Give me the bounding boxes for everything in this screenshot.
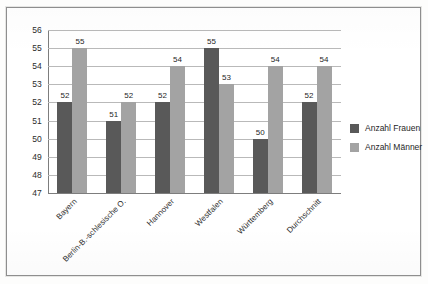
- bar-value-label: 55: [75, 37, 84, 46]
- x-axis-tick-labels: BayernBerlin-B.-schlesische O.HannoverWe…: [48, 195, 341, 255]
- bar[interactable]: 52: [121, 102, 136, 193]
- bar-group: 5254: [292, 30, 341, 193]
- legend-label: Anzahl Männer: [365, 142, 422, 152]
- y-axis-tick-label: 48: [32, 170, 42, 180]
- legend-label: Anzahl Frauen: [365, 123, 420, 133]
- bar[interactable]: 52: [155, 102, 170, 193]
- chart-page: 56555453525150494847 5255515252545553505…: [0, 0, 428, 284]
- bar[interactable]: 54: [268, 66, 283, 193]
- y-axis-tick-label: 53: [32, 79, 42, 89]
- bar-value-label: 55: [207, 37, 216, 46]
- y-axis-tick-label: 52: [32, 97, 42, 107]
- x-axis-tick-cell: Westfalen: [194, 195, 243, 255]
- bar[interactable]: 52: [57, 102, 72, 193]
- x-axis-tick-cell: Berlin-B.-schlesische O.: [97, 195, 146, 255]
- legend-item[interactable]: Anzahl Frauen: [350, 123, 428, 133]
- x-axis-tick-label: Hannover: [146, 197, 177, 228]
- legend-swatch: [350, 124, 359, 133]
- bar[interactable]: 54: [317, 66, 332, 193]
- bar-value-label: 54: [271, 55, 280, 64]
- y-axis-tick-label: 51: [32, 116, 42, 126]
- y-axis-tick-label: 49: [32, 152, 42, 162]
- y-axis-tick-label: 55: [32, 43, 42, 53]
- bar-value-label: 50: [256, 128, 265, 137]
- bar[interactable]: 50: [253, 139, 268, 193]
- y-axis-tick-label: 54: [32, 61, 42, 71]
- y-axis-tick-label: 56: [32, 25, 42, 35]
- legend-swatch: [350, 143, 359, 152]
- x-axis-tick-cell: Württemberg: [243, 195, 292, 255]
- bar-value-label: 54: [320, 55, 329, 64]
- bar-group: 5255: [48, 30, 97, 193]
- bar[interactable]: 52: [302, 102, 317, 193]
- x-axis-tick-cell: Durchschnitt: [292, 195, 341, 255]
- bar-group: 5054: [243, 30, 292, 193]
- bar-value-label: 52: [305, 91, 314, 100]
- bar-value-label: 53: [222, 73, 231, 82]
- plot-area: 56555453525150494847 5255515252545553505…: [48, 30, 341, 193]
- bar-value-label: 52: [60, 91, 69, 100]
- y-axis-tick-label: 50: [32, 134, 42, 144]
- bar-groups: 525551525254555350545254: [48, 30, 341, 193]
- bar-value-label: 54: [173, 55, 182, 64]
- y-axis-tick-label: 47: [32, 188, 42, 198]
- legend-item[interactable]: Anzahl Männer: [350, 142, 428, 152]
- gridline: [48, 193, 341, 194]
- chart-frame: 56555453525150494847 5255515252545553505…: [6, 7, 421, 276]
- bar[interactable]: 54: [170, 66, 185, 193]
- bar[interactable]: 55: [204, 48, 219, 193]
- bar-group: 5254: [146, 30, 195, 193]
- bar[interactable]: 55: [72, 48, 87, 193]
- chart-legend: Anzahl FrauenAnzahl Männer: [350, 123, 428, 161]
- bar[interactable]: 51: [106, 121, 121, 193]
- bar-value-label: 51: [109, 110, 118, 119]
- bar[interactable]: 53: [219, 84, 234, 193]
- bar-value-label: 52: [158, 91, 167, 100]
- x-axis-tick-label: Westfalen: [194, 197, 225, 228]
- x-axis-tick-cell: Hannover: [146, 195, 195, 255]
- bar-group: 5152: [97, 30, 146, 193]
- bar-group: 5553: [194, 30, 243, 193]
- x-axis-tick-label: Bayern: [54, 197, 78, 221]
- bar-value-label: 52: [124, 91, 133, 100]
